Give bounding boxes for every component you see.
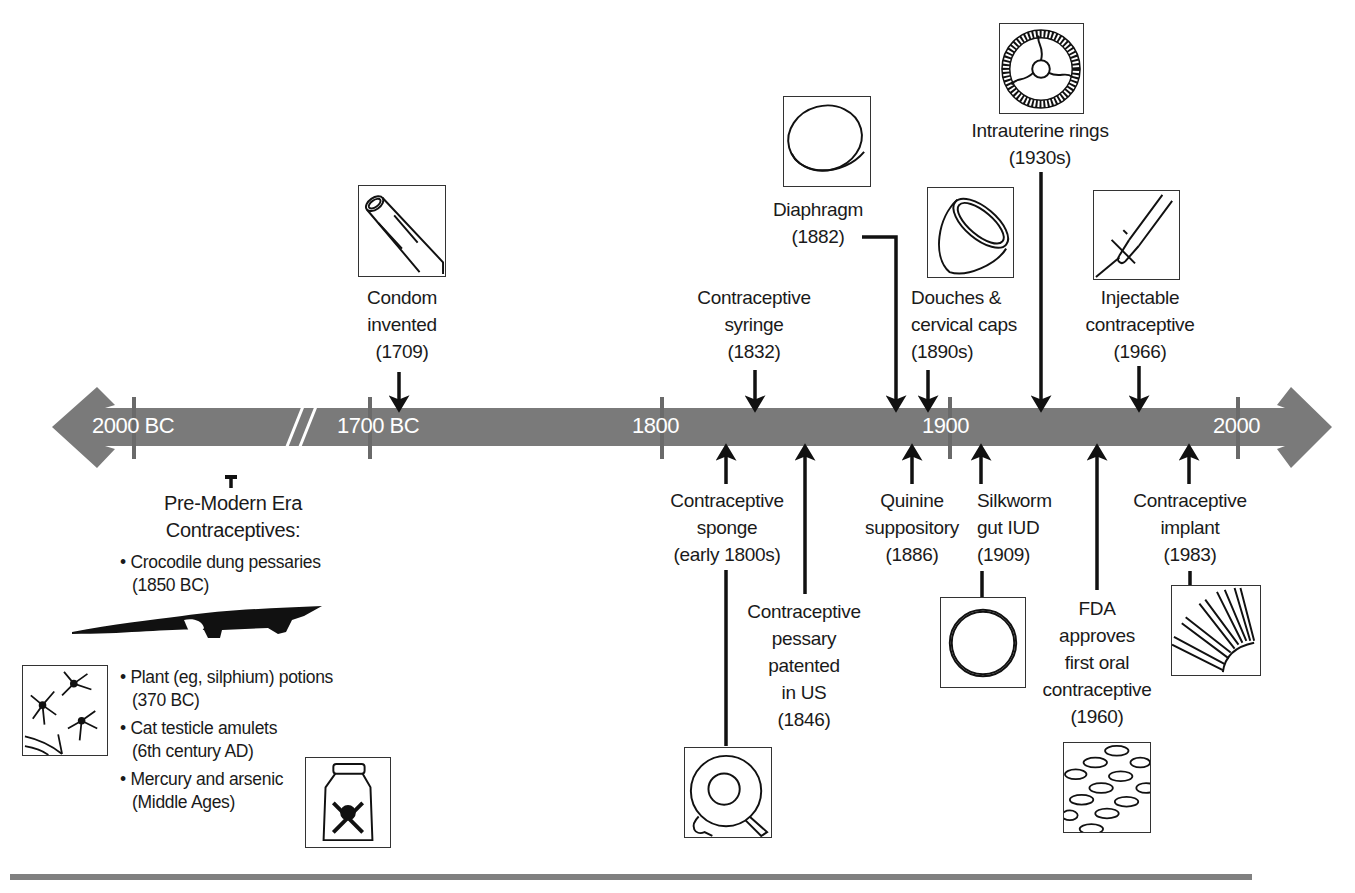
- event-label-syringe: Contraceptive syringe (1832): [697, 284, 810, 365]
- event-label-pessary: Contraceptive pessary patented in US (18…: [747, 598, 860, 733]
- diaphragm-icon: [783, 96, 871, 187]
- pre-modern-list: Crocodile dung pessaries (1850 BC): [120, 551, 360, 602]
- event-label-implant: Contraceptive implant (1983): [1133, 487, 1246, 568]
- event-label-injectable: Injectable contraceptive (1966): [1085, 284, 1194, 365]
- pills-icon: [1063, 742, 1151, 833]
- condom-icon: [358, 185, 446, 277]
- crocodile-icon: [72, 598, 327, 643]
- lily-flower-icon: [22, 665, 108, 756]
- event-label-rings: Intrauterine rings (1930s): [971, 117, 1108, 171]
- pre-modern-item-plant: Plant (eg, silphium) potions (370 BC): [120, 666, 360, 712]
- event-label-sponge: Contraceptive sponge (early 1800s): [670, 487, 783, 568]
- syringe-icon: [1093, 190, 1180, 280]
- iud-ring-icon: [940, 597, 1026, 688]
- event-label-fda: FDA approves first oral contraceptive (1…: [1042, 595, 1151, 730]
- event-label-douches: Douches & cervical caps (1890s): [911, 284, 1017, 365]
- intrauterine-ring-icon: [999, 23, 1084, 114]
- sponge-icon: [684, 747, 772, 838]
- pre-modern-heading: Pre-Modern Era Contraceptives:: [164, 490, 302, 544]
- event-label-quinine: Quinine suppository (1886): [865, 487, 959, 568]
- event-label-condom: Condom invented (1709): [367, 284, 437, 365]
- implant-rods-icon: [1171, 585, 1261, 676]
- event-label-diaphragm: Diaphragm (1882): [773, 196, 863, 250]
- arrow-diaphragm: [862, 237, 896, 404]
- pre-modern-item-crocodile: Crocodile dung pessaries (1850 BC): [120, 551, 360, 597]
- cervical-cap-icon: [927, 187, 1014, 278]
- bottom-divider: [10, 874, 1252, 880]
- poison-bottle-icon: [305, 757, 391, 848]
- event-label-silkworm: Silkworm gut IUD (1909): [977, 487, 1052, 568]
